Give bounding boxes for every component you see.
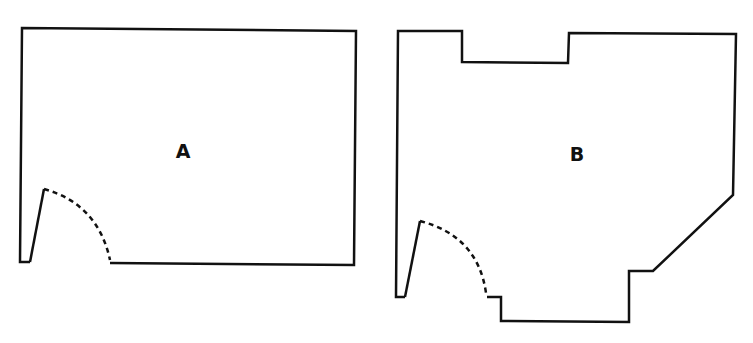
room-b-label: B bbox=[570, 143, 584, 165]
room-a-label: A bbox=[176, 140, 191, 162]
room-b-door-leaf bbox=[405, 221, 420, 297]
room-b-door-swing-arc bbox=[420, 221, 486, 293]
floor-plan-diagram bbox=[0, 0, 753, 343]
room-b bbox=[396, 31, 736, 322]
room-a-door-swing-arc bbox=[44, 189, 110, 260]
room-a-door-leaf bbox=[30, 189, 44, 262]
room-b-walls bbox=[396, 31, 736, 322]
